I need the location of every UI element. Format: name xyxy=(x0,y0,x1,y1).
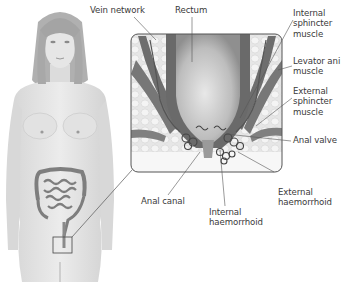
label-internal-sphincter: Internal sphincter muscle xyxy=(293,8,332,39)
label-external-sphincter: External sphincter muscle xyxy=(293,86,332,117)
label-vein-network: Vein network xyxy=(90,5,145,15)
body-figure xyxy=(6,12,132,282)
label-internal-haemorrhoid: Internal haemorrhoid xyxy=(209,207,263,228)
label-anal-canal: Anal canal xyxy=(141,196,185,206)
label-rectum: Rectum xyxy=(175,5,207,15)
label-external-haemorrhoid: External haemorrhoid xyxy=(278,187,332,208)
label-levator-ani: Levator ani muscle xyxy=(293,56,340,77)
inset-detail xyxy=(131,34,282,172)
label-anal-valve: Anal valve xyxy=(293,135,337,145)
